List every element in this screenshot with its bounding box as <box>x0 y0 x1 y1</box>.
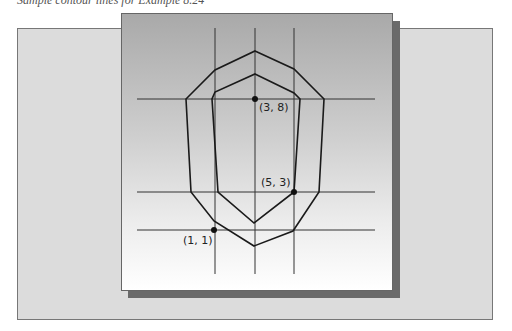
point-1-1-marker <box>211 227 217 233</box>
grid-lines <box>137 28 375 274</box>
point-label-5-3: (5, 3) <box>261 176 291 189</box>
contour-plot <box>0 0 512 331</box>
point-label-3-8: (3, 8) <box>259 101 289 114</box>
point-label-1-1: (1, 1) <box>183 234 213 247</box>
point-3-8-marker <box>252 96 258 102</box>
point-5-3-marker <box>291 189 297 195</box>
